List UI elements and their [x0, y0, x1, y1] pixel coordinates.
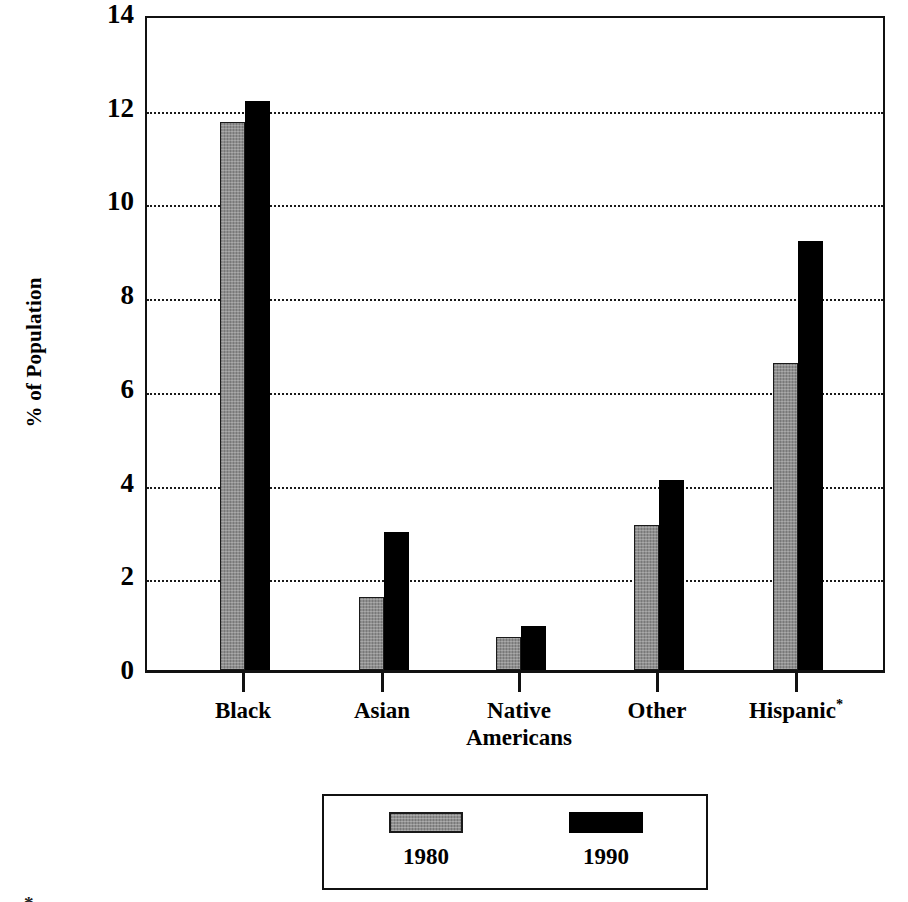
y-axis-tick-label: 12: [44, 95, 134, 122]
y-axis-tick-label: 4: [44, 470, 134, 497]
x-axis-line: [145, 670, 885, 673]
legend-entry-1990[interactable]: 1990: [526, 812, 686, 870]
bar-1990-native-americans: [521, 626, 546, 671]
x-axis-label-line: Hispanic*: [696, 697, 896, 724]
bar-1990-black: [245, 101, 270, 670]
y-axis-tick-label: 10: [44, 188, 134, 215]
x-axis-label-hispanic: Hispanic*: [696, 697, 896, 724]
legend-label: 1980: [346, 844, 506, 870]
legend-entry-1980[interactable]: 1980: [346, 812, 506, 870]
bar-1980-asian: [359, 597, 384, 670]
black-swatch: [569, 812, 643, 833]
bar-1990-asian: [384, 532, 409, 670]
plot-area: [145, 16, 885, 672]
y-axis-tick-label: 8: [44, 282, 134, 309]
bar-chart-figure: % of Population 02468101214 BlackAsianNa…: [0, 0, 908, 902]
bar-1980-other: [634, 525, 659, 670]
x-axis-tick: [381, 672, 384, 692]
y-axis-tick-labels: 02468101214: [30, 16, 134, 672]
bar-1980-black: [220, 122, 245, 670]
y-axis-tick-label: 14: [44, 1, 134, 28]
plot-inner: [147, 18, 883, 670]
bar-1990-other: [659, 480, 684, 670]
legend-label: 1990: [526, 844, 686, 870]
y-axis-tick-label: 6: [44, 376, 134, 403]
bar-1980-native-americans: [496, 637, 521, 670]
y-axis-tick-label: 0: [44, 657, 134, 684]
gray-hatched-swatch: [389, 812, 463, 833]
x-axis-tick: [656, 672, 659, 692]
footnote-marker: *: [24, 894, 34, 902]
x-axis-tick: [242, 672, 245, 692]
legend: 19801990: [322, 794, 708, 890]
bar-1980-hispanic: [773, 363, 798, 670]
y-axis-tick-label: 2: [44, 563, 134, 590]
x-axis-label-line: Americans: [419, 724, 619, 751]
footnote-asterisk: *: [836, 696, 843, 712]
x-axis-tick: [795, 672, 798, 692]
x-axis-tick: [518, 672, 521, 692]
bar-1990-hispanic: [798, 241, 823, 670]
